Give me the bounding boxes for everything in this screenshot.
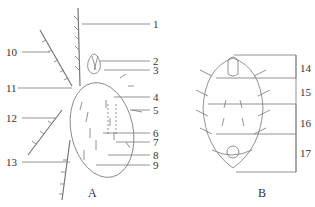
label-3: 3 [153, 65, 159, 76]
label-16: 16 [300, 118, 311, 129]
leader-lines-b [208, 55, 296, 172]
label-10: 10 [6, 47, 17, 58]
label-13: 13 [6, 157, 17, 168]
label-11: 11 [6, 83, 17, 94]
panel-a-caption: A [88, 186, 97, 201]
label-1: 1 [153, 19, 159, 30]
label-4: 4 [153, 92, 159, 103]
label-7: 7 [153, 137, 159, 148]
mite-a-body [62, 77, 143, 184]
mite-b-body [203, 58, 263, 168]
label-12: 12 [6, 113, 17, 124]
label-14: 14 [300, 63, 311, 74]
label-15: 15 [300, 87, 311, 98]
label-5: 5 [153, 105, 159, 116]
leader-lines-a [18, 24, 150, 165]
label-9: 9 [153, 160, 159, 171]
label-17: 17 [300, 148, 311, 159]
panel-b-caption: B [258, 186, 266, 201]
